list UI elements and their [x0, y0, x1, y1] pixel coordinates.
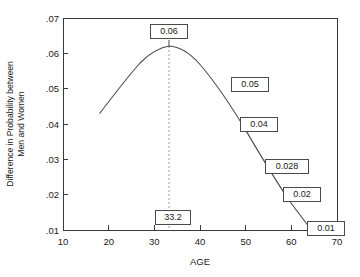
plot-canvas: .07 .06 .05 .04 .03 .02 .01 10 20 30 40 …: [0, 0, 360, 277]
y-axis-title-line-2: Men and Women: [16, 91, 26, 157]
callout-value-001: 0.01: [307, 221, 345, 236]
callout-value-005: 0.05: [231, 77, 269, 92]
y-tick-label-01: .01: [46, 225, 59, 236]
x-tick-label-60: 60: [286, 236, 297, 247]
x-tick-labels: 10 20 30 40 50 60 70: [58, 236, 343, 247]
y-axis-title-line-1: Difference in Probability between: [5, 61, 15, 187]
chart-figure: .07 .06 .05 .04 .03 .02 .01 10 20 30 40 …: [0, 0, 360, 277]
x-tick-label-30: 30: [149, 236, 160, 247]
y-axis-title: Difference in Probability between Men an…: [5, 61, 26, 187]
x-tick-label-50: 50: [240, 236, 251, 247]
y-tick-label-05: .05: [46, 83, 59, 94]
x-tick-label-10: 10: [58, 236, 69, 247]
x-tick-label-70: 70: [332, 236, 343, 247]
y-tick-marks: [63, 18, 68, 230]
x-tick-label-20: 20: [103, 236, 114, 247]
callout-peak-age: 33.2: [155, 210, 191, 225]
y-tick-label-04: .04: [46, 119, 59, 130]
x-tick-marks: [63, 225, 337, 230]
callout-value-002: 0.02: [283, 187, 321, 202]
y-tick-label-06: .06: [46, 48, 59, 59]
x-axis-title: AGE: [190, 256, 210, 267]
y-tick-labels: .07 .06 .05 .04 .03 .02 .01: [46, 13, 59, 236]
y-tick-label-03: .03: [46, 154, 59, 165]
callout-value-0028: 0.028: [265, 159, 309, 174]
x-tick-label-40: 40: [195, 236, 206, 247]
y-tick-label-02: .02: [46, 189, 59, 200]
callout-value-006: 0.06: [150, 24, 188, 39]
probability-curve: [100, 46, 311, 228]
y-tick-label-07: .07: [46, 13, 59, 24]
callout-value-004: 0.04: [240, 117, 278, 132]
